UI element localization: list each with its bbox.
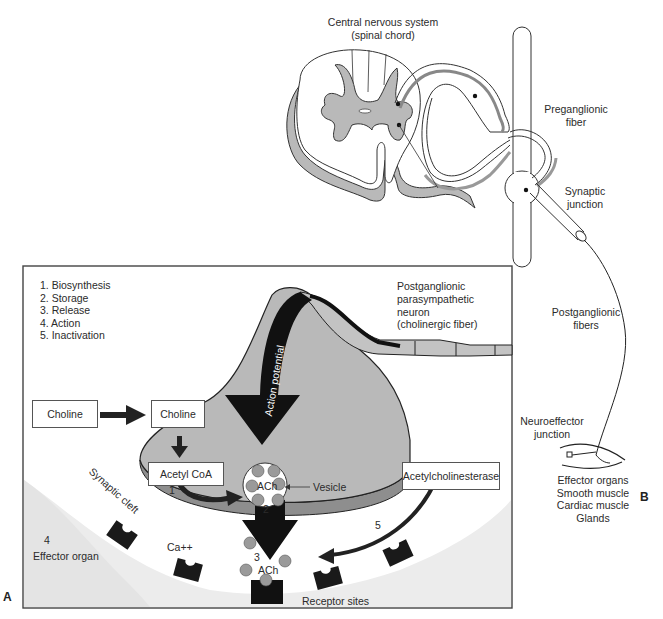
ganglion-chain <box>505 27 626 468</box>
neuroeffector-junction-label: Neuroeffector junction <box>512 415 592 440</box>
effector-organ-number: 4 <box>44 534 50 547</box>
vesicle-label: Vesicle <box>313 481 346 494</box>
panel-b-letter: B <box>640 490 649 504</box>
calcium-label: Ca++ <box>167 541 193 554</box>
step-marker-2: 2 <box>263 503 269 516</box>
postganglionic-neuron-label: Postganglionic parasympathetic neuron (c… <box>397 280 478 331</box>
released-ach-label: ACh <box>258 564 278 577</box>
receptor-sites-label: Receptor sites <box>302 595 369 608</box>
preganglionic-fiber-label: Preganglionic fiber <box>536 103 616 128</box>
acetyl-coa-box: Acetyl CoA <box>148 462 224 486</box>
synaptic-junction-label: Synaptic junction <box>555 185 615 210</box>
step-item: 2. Storage <box>40 292 111 305</box>
spinal-cord-section <box>287 50 510 208</box>
panel-a-letter: A <box>3 590 12 604</box>
vesicle-ach-label: ACh <box>257 480 277 493</box>
step-item: 3. Release <box>40 304 111 317</box>
steps-list: 1. Biosynthesis 2. Storage 3. Release 4.… <box>40 279 111 342</box>
step-marker-3: 3 <box>254 551 260 564</box>
choline-inside-box: Choline <box>151 400 205 428</box>
step-item: 1. Biosynthesis <box>40 279 111 292</box>
step-item: 5. Inactivation <box>40 329 111 342</box>
postganglionic-fibers-label: Postganglionic fibers <box>546 306 626 331</box>
effector-organ-label: Effector organ <box>33 550 99 563</box>
step-marker-5: 5 <box>375 519 381 532</box>
choline-outside-box: Choline <box>32 400 98 428</box>
effector-organs-label: Effector organs Smooth muscle Cardiac mu… <box>548 474 638 524</box>
cns-label: Central nervous system (spinal chord) <box>318 16 448 41</box>
step-marker-1: 1 <box>169 484 175 497</box>
step-item: 4. Action <box>40 317 111 330</box>
acetylcholinesterase-box: Acetylcholinesterase <box>402 462 500 490</box>
